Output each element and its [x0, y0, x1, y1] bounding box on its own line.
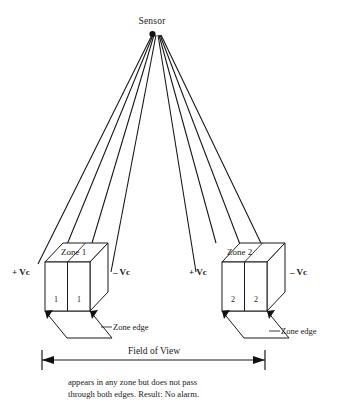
caption-line-1: appears in any zone but does not pass: [68, 377, 198, 387]
zone-1-ground-parallelogram: [45, 311, 112, 338]
zone-2-edge-label: Zone edge: [281, 326, 317, 336]
field-of-view-label: Field of View: [128, 346, 180, 356]
fov-right-arrow-icon: [253, 356, 265, 364]
sensor-field-of-view-diagram: Sensor 1 1 Zone 1 + Vc – Vc: [0, 0, 338, 408]
zone-1-left-voltage-label: + Vc: [12, 267, 30, 277]
beam-right-outer: [161, 35, 271, 264]
zone-1-group: 1 1 Zone 1 + Vc – Vc Zone edge: [12, 243, 149, 338]
zone-2-title: Zone 2: [227, 247, 252, 257]
zone-2-left-voltage-label: + Vc: [189, 267, 207, 277]
caption-line-2: through both edges. Result: No alarm.: [68, 389, 199, 399]
beam-right-edge-extension: [158, 35, 196, 272]
figure-canvas: Sensor 1 1 Zone 1 + Vc – Vc: [0, 0, 338, 408]
zone-2-group: 2 2 Zone 2 + Vc – Vc Zone edge: [189, 243, 317, 338]
zone-1-title: Zone 1: [61, 247, 86, 257]
beam-left-middle: [66, 35, 153, 247]
zone-2-right-voltage-label: – Vc: [289, 267, 307, 277]
beam-left-outer: [38, 35, 152, 264]
fov-left-arrow-icon: [42, 356, 54, 364]
sensor-point-icon: [149, 31, 155, 37]
sensor-label: Sensor: [138, 16, 166, 26]
beam-left-edge-extension: [111, 35, 156, 272]
zone-1-right-voltage-label: – Vc: [112, 267, 130, 277]
zone-1-cell-label-right: 1: [77, 295, 81, 304]
beam-right-middle: [160, 35, 241, 247]
zone-2-ground-parallelogram: [222, 311, 289, 338]
zone-1-cell-label-left: 1: [54, 295, 58, 304]
beam-left-inner: [92, 35, 154, 243]
field-of-view-dimension: Field of View: [42, 346, 265, 370]
zone-1-edge-label: Zone edge: [113, 322, 149, 332]
beam-group: [38, 35, 271, 272]
zone-2-cell-label-right: 2: [254, 295, 258, 304]
beam-right-inner: [159, 35, 216, 243]
zone-2-cell-label-left: 2: [231, 295, 235, 304]
figure-caption: appears in any zone but does not pass th…: [68, 377, 199, 399]
